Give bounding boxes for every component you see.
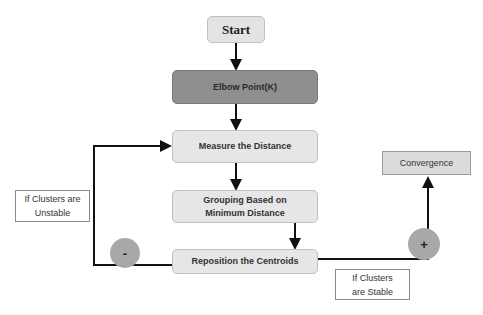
minus-sign: - [123, 246, 127, 261]
measure-distance-node: Measure the Distance [172, 130, 318, 163]
unstable-label: If Clusters are Unstable [15, 190, 90, 222]
convergence-node: Convergence [382, 151, 471, 175]
reposition-centroids-node: Reposition the Centroids [172, 249, 318, 274]
elbow-point-node: Elbow Point(K) [172, 70, 318, 104]
start-node: Start [207, 16, 265, 43]
plus-sign: + [420, 237, 428, 252]
minus-circle-icon: - [110, 238, 140, 268]
plus-circle-icon: + [408, 228, 440, 260]
stable-label: If Clusters are Stable [335, 269, 410, 300]
grouping-node: Grouping Based on Minimum Distance [172, 190, 318, 223]
